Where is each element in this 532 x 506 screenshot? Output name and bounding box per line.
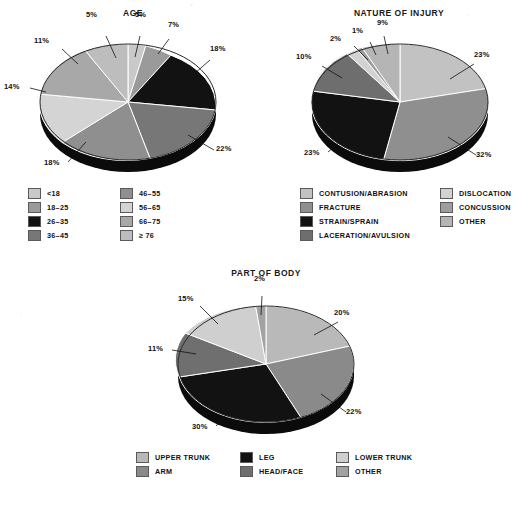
legend-item-body-0[interactable]: UPPER TRUNK	[136, 452, 234, 463]
pie-age-label-4: 18%	[44, 158, 60, 167]
pie-nature-of-injury: 23% 32% 23% 10% 2% 1% 9%	[300, 22, 500, 182]
pie-age: 5% 5% 7% 18% 22% 18% 14% 11%	[28, 22, 228, 182]
legend-label: DISLOCATION	[459, 189, 511, 198]
legend-swatch-icon	[136, 452, 149, 463]
page-root: { "page": { "background": "#ffffff", "la…	[0, 0, 532, 506]
legend-label: CONTUSION/ABRASION	[319, 189, 408, 198]
pie-age-label-2: 18%	[210, 44, 226, 53]
pie-age-label-5: 14%	[4, 82, 20, 91]
legend-item-nature-2[interactable]: STRAIN/SPRAIN	[300, 216, 434, 227]
pie-age-label-6: 11%	[34, 36, 49, 45]
legend-item-body-3[interactable]: HEAD/FACE	[240, 466, 330, 477]
legend-label: STRAIN/SPRAIN	[319, 217, 379, 226]
pie-body-label-1: 22%	[346, 407, 362, 416]
pie-nature-label-1: 32%	[476, 150, 492, 159]
legend-label: LACERATION/AVULSION	[319, 231, 410, 240]
pie-part-of-body: 20% 22% 30% 11% 15% 2%	[166, 284, 366, 444]
legend-label: CONCUSSION	[459, 203, 511, 212]
pie-body-label-5: 2%	[254, 274, 265, 283]
legend-item-nature-5[interactable]: CONCUSSION	[440, 202, 532, 213]
legend-swatch-icon	[240, 466, 253, 477]
legend-label: 36–45	[47, 231, 69, 240]
legend-item-nature-3[interactable]: LACERATION/AVULSION	[300, 230, 434, 241]
pie-age-label-1: 7%	[168, 20, 179, 29]
chart-nature-of-injury: NATURE OF INJURY	[266, 0, 532, 260]
legend-item-body-5[interactable]: OTHER	[336, 466, 434, 477]
chart-title-part-of-body: PART OF BODY	[110, 268, 422, 278]
legend-label: 46–55	[139, 189, 161, 198]
pie-body-label-2: 30%	[192, 422, 208, 431]
legend-swatch-icon	[336, 452, 349, 463]
legend-swatch-icon	[440, 202, 453, 213]
legend-label: OTHER	[459, 217, 486, 226]
pie-body-slices	[175, 306, 354, 422]
legend-label: HEAD/FACE	[259, 467, 303, 476]
pie-nature-label-4: 2%	[330, 34, 341, 43]
legend-swatch-icon	[28, 188, 41, 199]
legend-item-body-2[interactable]: LEG	[240, 452, 330, 463]
legend-item-age-1[interactable]: 18–25	[28, 202, 114, 213]
legend-spacer	[440, 230, 532, 241]
pie-body-label-0: 20%	[334, 308, 350, 317]
pie-age-label-3: 22%	[216, 144, 232, 153]
pie-age-label-0: 5%	[86, 10, 97, 19]
legend-swatch-icon	[240, 452, 253, 463]
chart-part-of-body: PART OF BODY	[110, 262, 422, 506]
legend-swatch-icon	[120, 230, 133, 241]
chart-age: AGE	[0, 0, 266, 260]
legend-label: FRACTURE	[319, 203, 361, 212]
chart-title-nature-of-injury: NATURE OF INJURY	[266, 8, 532, 18]
legend-label: <18	[47, 189, 60, 198]
pie-body-label-4: 15%	[178, 294, 194, 303]
pie-body-label-3: 11%	[148, 344, 163, 353]
legend-swatch-icon	[120, 216, 133, 227]
legend-label: 56–65	[139, 203, 161, 212]
legend-item-age-4[interactable]: 46–55	[120, 188, 206, 199]
pie-age-label-7: 5%	[135, 10, 146, 19]
chart-title-age: AGE	[0, 8, 266, 18]
legend-item-nature-6[interactable]: OTHER	[440, 216, 532, 227]
legend-swatch-icon	[300, 230, 313, 241]
pie-nature-label-3: 10%	[296, 52, 312, 61]
legend-swatch-icon	[300, 202, 313, 213]
legend-swatch-icon	[300, 216, 313, 227]
legend-part-of-body: UPPER TRUNK LEG LOWER TRUNK ARM HEAD/FAC…	[136, 452, 422, 477]
legend-label: LEG	[259, 453, 275, 462]
legend-label: ≥ 76	[139, 231, 154, 240]
legend-label: LOWER TRUNK	[355, 453, 412, 462]
legend-item-age-6[interactable]: 66–75	[120, 216, 206, 227]
legend-label: 18–25	[47, 203, 69, 212]
legend-swatch-icon	[336, 466, 349, 477]
legend-swatch-icon	[28, 216, 41, 227]
pie-nature-label-0: 23%	[474, 50, 490, 59]
legend-label: 66–75	[139, 217, 161, 226]
legend-item-age-3[interactable]: 36–45	[28, 230, 114, 241]
legend-swatch-icon	[300, 188, 313, 199]
legend-label: OTHER	[355, 467, 382, 476]
legend-swatch-icon	[120, 188, 133, 199]
legend-swatch-icon	[136, 466, 149, 477]
legend-item-age-0[interactable]: <18	[28, 188, 114, 199]
legend-item-age-5[interactable]: 56–65	[120, 202, 206, 213]
legend-label: UPPER TRUNK	[155, 453, 210, 462]
pie-nature-label-2: 23%	[304, 148, 320, 157]
legend-item-age-2[interactable]: 26–35	[28, 216, 114, 227]
legend-item-nature-1[interactable]: FRACTURE	[300, 202, 434, 213]
legend-swatch-icon	[28, 202, 41, 213]
legend-label: ARM	[155, 467, 172, 476]
legend-item-body-1[interactable]: ARM	[136, 466, 234, 477]
legend-item-age-7[interactable]: ≥ 76	[120, 230, 206, 241]
legend-label: 26–35	[47, 217, 69, 226]
legend-age: <18 46–55 18–25 56–65 26–35 66–75 36–45	[28, 188, 218, 241]
legend-item-body-4[interactable]: LOWER TRUNK	[336, 452, 434, 463]
legend-swatch-icon	[440, 216, 453, 227]
legend-swatch-icon	[28, 230, 41, 241]
pie-nature-label-5: 1%	[352, 26, 363, 35]
legend-nature-of-injury: CONTUSION/ABRASION DISLOCATION FRACTURE …	[300, 188, 528, 241]
legend-swatch-icon	[120, 202, 133, 213]
pie-nature-label-6: 9%	[377, 18, 388, 27]
legend-item-nature-4[interactable]: DISLOCATION	[440, 188, 532, 199]
legend-item-nature-0[interactable]: CONTUSION/ABRASION	[300, 188, 434, 199]
pie-nature-svg	[300, 22, 500, 182]
legend-swatch-icon	[440, 188, 453, 199]
